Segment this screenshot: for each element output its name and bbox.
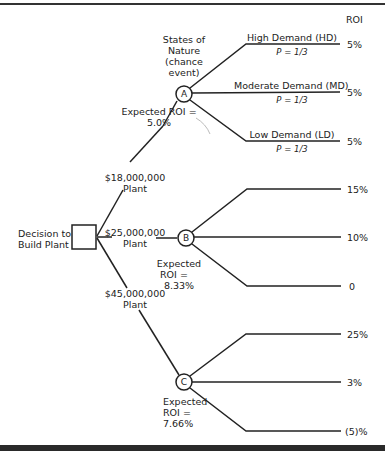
roi-c-high: 25%: [347, 329, 368, 340]
plant-a-cost-label: $18,000,000 Plant: [98, 172, 172, 194]
outcome-a-md: Moderate Demand (MD): [234, 80, 346, 91]
roi-a-hd: 5%: [347, 39, 362, 50]
roi-column-header: ROI: [346, 14, 363, 25]
outcome-a-hd: High Demand (HD): [240, 32, 344, 43]
outcome-a-ld: Low Demand (LD): [240, 129, 344, 140]
states-of-nature-label: States of Nature (chance event): [158, 34, 210, 78]
expected-roi-c: Expected ROI = 7.66%: [163, 396, 209, 429]
roi-a-md: 5%: [347, 87, 362, 98]
roi-b-high: 15%: [347, 184, 368, 195]
roi-c-moderate: 3%: [347, 377, 362, 388]
plant-b-cost-label: $25,000,000 Plant: [98, 227, 172, 249]
expected-roi-b: Expected ROI = 8.33%: [156, 258, 202, 291]
node-b-letter: B: [179, 231, 193, 245]
outcome-a-md-probability: P = 1/3: [240, 95, 344, 106]
roi-c-low: (5)%: [345, 426, 367, 437]
outcome-a-ld-probability: P = 1/3: [240, 144, 344, 155]
bottom-border: [0, 445, 385, 451]
expected-roi-a: Expected ROI = 5.0%: [118, 106, 200, 128]
decision-node-label: Decision to Build Plant: [18, 228, 71, 250]
decision-node-square: [72, 225, 96, 249]
outcome-a-hd-probability: P = 1/3: [240, 47, 344, 58]
plant-c-cost-label: $45,000,000 Plant: [98, 288, 172, 310]
roi-b-low: 0: [349, 281, 355, 292]
roi-b-moderate: 10%: [347, 232, 368, 243]
roi-a-ld: 5%: [347, 136, 362, 147]
node-c-letter: C: [177, 375, 191, 389]
node-a-letter: A: [177, 87, 191, 101]
